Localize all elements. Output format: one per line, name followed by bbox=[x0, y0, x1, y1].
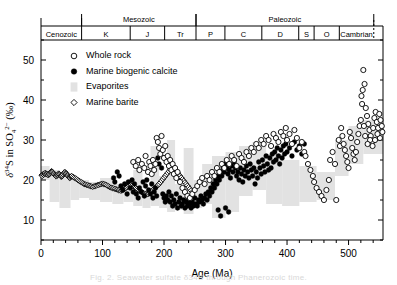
data-point-whole-rock bbox=[143, 153, 148, 158]
period-label-j: J bbox=[146, 30, 150, 39]
data-point-whole-rock bbox=[352, 157, 357, 162]
x-tick-label: 300 bbox=[217, 248, 234, 259]
data-point-whole-rock bbox=[159, 133, 164, 138]
data-point-whole-rock bbox=[246, 153, 251, 158]
data-point-whole-rock bbox=[155, 139, 160, 144]
svg-text:δ34S in SO42− (‰): δ34S in SO42− (‰) bbox=[3, 102, 18, 178]
data-point-whole-rock bbox=[222, 165, 227, 170]
data-point-whole-rock bbox=[341, 141, 346, 146]
data-point-whole-rock bbox=[364, 113, 369, 118]
data-point-whole-rock bbox=[361, 67, 366, 72]
data-point-whole-rock bbox=[346, 165, 351, 170]
data-point-whole-rock bbox=[241, 159, 246, 164]
data-point-whole-rock bbox=[332, 161, 337, 166]
data-point-whole-rock bbox=[202, 181, 207, 186]
data-point-whole-rock bbox=[358, 117, 363, 122]
data-point-whole-rock bbox=[303, 153, 308, 158]
data-point-whole-rock bbox=[177, 179, 182, 184]
data-point-whole-rock bbox=[340, 133, 345, 138]
data-point-whole-rock bbox=[163, 143, 168, 148]
data-point-whole-rock bbox=[152, 167, 157, 172]
y-tick-label: 30 bbox=[23, 135, 35, 146]
data-point-whole-rock bbox=[328, 157, 333, 162]
data-point-marine-biogenic-calcite bbox=[125, 192, 130, 197]
data-point-whole-rock bbox=[360, 87, 365, 92]
legend-marker-marine-barite bbox=[71, 99, 77, 105]
data-point-marine-biogenic-calcite bbox=[223, 206, 228, 211]
data-point-whole-rock bbox=[310, 173, 315, 178]
data-point-whole-rock bbox=[363, 133, 368, 138]
data-point-whole-rock bbox=[379, 123, 384, 128]
data-point-whole-rock bbox=[297, 145, 302, 150]
data-point-marine-biogenic-calcite bbox=[216, 208, 221, 213]
data-point-whole-rock bbox=[232, 157, 237, 162]
data-point-whole-rock bbox=[348, 135, 353, 140]
data-point-whole-rock bbox=[294, 135, 299, 140]
period-label-s: S bbox=[304, 30, 309, 39]
period-label-k: K bbox=[103, 30, 108, 39]
y-tick-label: 20 bbox=[23, 175, 35, 186]
data-point-marine-biogenic-calcite bbox=[250, 174, 255, 179]
data-point-marine-biogenic-calcite bbox=[174, 192, 179, 197]
data-point-whole-rock bbox=[347, 129, 352, 134]
data-point-whole-rock bbox=[227, 161, 232, 166]
period-label-c: C bbox=[241, 30, 247, 39]
data-point-whole-rock bbox=[378, 117, 383, 122]
x-tick-label: 100 bbox=[94, 248, 111, 259]
figure-sulfur-isotope-chart: CenozoicKJTrPCDSOCambrianMesozoicPaleozo… bbox=[0, 0, 397, 285]
data-point-whole-rock bbox=[266, 137, 271, 142]
data-point-marine-biogenic-calcite bbox=[228, 176, 233, 181]
data-point-whole-rock bbox=[324, 187, 329, 192]
data-point-whole-rock bbox=[330, 149, 335, 154]
data-point-marine-biogenic-calcite bbox=[240, 180, 245, 185]
data-point-whole-rock bbox=[251, 149, 256, 154]
x-tick-label: 500 bbox=[340, 248, 357, 259]
data-point-whole-rock bbox=[276, 139, 281, 144]
data-point-marine-biogenic-calcite bbox=[218, 214, 223, 219]
data-point-whole-rock bbox=[256, 145, 261, 150]
y-tick-label: 50 bbox=[23, 55, 35, 66]
data-point-whole-rock bbox=[361, 123, 366, 128]
legend-marker-marine-biogenic-calcite bbox=[71, 69, 77, 75]
data-point-whole-rock bbox=[375, 131, 380, 136]
y-axis-title: δ34S in SO42− (‰) bbox=[3, 102, 18, 178]
data-point-marine-biogenic-calcite bbox=[248, 162, 253, 167]
data-point-whole-rock bbox=[362, 81, 367, 86]
data-point-whole-rock bbox=[380, 129, 385, 134]
data-point-whole-rock bbox=[200, 175, 205, 180]
data-point-marine-biogenic-calcite bbox=[132, 182, 137, 187]
data-point-marine-biogenic-calcite bbox=[254, 170, 259, 175]
data-point-marine-biogenic-calcite bbox=[142, 194, 147, 199]
data-point-whole-rock bbox=[359, 93, 364, 98]
era-label-paleozoic: Paleozoic bbox=[269, 15, 302, 24]
data-point-whole-rock bbox=[137, 167, 142, 172]
legend-label-3: Marine barite bbox=[86, 97, 139, 107]
data-point-whole-rock bbox=[234, 163, 239, 168]
data-point-whole-rock bbox=[268, 143, 273, 148]
legend-label-0: Whole rock bbox=[86, 50, 132, 60]
data-point-marine-biogenic-calcite bbox=[149, 182, 154, 187]
period-label-o: O bbox=[324, 30, 330, 39]
data-point-whole-rock bbox=[359, 101, 364, 106]
data-point-marine-biogenic-calcite bbox=[290, 154, 295, 159]
data-point-whole-rock bbox=[287, 131, 292, 136]
data-point-whole-rock bbox=[283, 125, 288, 130]
data-point-marine-biogenic-calcite bbox=[260, 158, 265, 163]
y-tick-label: 10 bbox=[23, 215, 35, 226]
data-point-whole-rock bbox=[355, 139, 360, 144]
data-point-marine-biogenic-calcite bbox=[269, 166, 274, 171]
data-point-marine-biogenic-calcite bbox=[277, 162, 282, 167]
data-point-marine-biogenic-calcite bbox=[154, 194, 159, 199]
data-point-whole-rock bbox=[334, 197, 339, 202]
y-tick-label: 40 bbox=[23, 95, 35, 106]
data-point-whole-rock bbox=[175, 169, 180, 174]
era-label-mesozoic: Mesozoic bbox=[123, 15, 155, 24]
legend-label-1: Marine biogenic calcite bbox=[86, 66, 178, 76]
x-tick-label: 200 bbox=[156, 248, 173, 259]
data-point-whole-rock bbox=[261, 141, 266, 146]
legend-marker-evaporites bbox=[71, 82, 78, 91]
data-point-whole-rock bbox=[299, 139, 304, 144]
data-point-marine-biogenic-calcite bbox=[117, 174, 122, 179]
data-point-whole-rock bbox=[371, 125, 376, 130]
figure-caption: Fig. 2. Seawater sulfate δ34S through Ph… bbox=[0, 273, 397, 285]
